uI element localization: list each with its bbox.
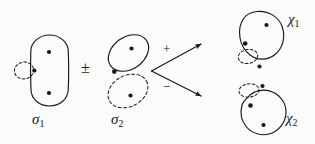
diagram-vector-layer — [0, 0, 315, 144]
sigma2-dots — [112, 46, 134, 97]
dot — [112, 69, 117, 74]
label-chi1-subscript: 1 — [295, 18, 300, 29]
dot — [47, 50, 51, 54]
sigma2-lower-dashed-oval — [102, 67, 154, 114]
branch-label-plus: + — [163, 42, 170, 55]
dot — [260, 84, 264, 88]
arrow-plus — [152, 44, 202, 71]
shape-sigma2 — [101, 27, 155, 114]
label-chi2-subscript: 2 — [293, 117, 298, 128]
label-sigma1: σ1 — [32, 112, 44, 129]
figure-canvas: σ1 σ2 χ1 χ2 ± + − — [0, 0, 315, 144]
arrow-minus — [152, 71, 202, 96]
shape-sigma1 — [13, 35, 68, 106]
label-sigma2: σ2 — [111, 112, 123, 129]
plus-minus-operator: ± — [81, 60, 90, 76]
label-chi1: χ1 — [288, 12, 300, 29]
shape-chi1 — [237, 11, 284, 65]
chi1-dashed-hole — [237, 48, 259, 65]
branch-arrows — [152, 44, 202, 96]
label-chi1-glyph: χ — [288, 11, 295, 27]
dot — [129, 46, 133, 50]
label-sigma1-subscript: 1 — [39, 118, 44, 129]
dot — [257, 64, 261, 68]
shape-chi2 — [238, 83, 286, 135]
dot — [248, 103, 253, 108]
branch-label-minus: − — [163, 80, 170, 93]
dot — [47, 91, 51, 95]
dot — [264, 23, 268, 27]
sigma1-dots — [32, 50, 51, 95]
sigma2-upper-oval — [101, 27, 155, 79]
chi1-outline — [240, 11, 284, 59]
sigma1-dashed-hole — [13, 61, 34, 80]
label-chi2-glyph: χ — [286, 110, 293, 126]
dot — [243, 41, 248, 46]
chi1-dots — [243, 23, 269, 69]
dot — [32, 69, 36, 73]
label-sigma2-subscript: 2 — [118, 118, 123, 129]
label-chi2: χ2 — [286, 111, 298, 128]
dot — [261, 123, 265, 127]
dot — [128, 93, 132, 97]
